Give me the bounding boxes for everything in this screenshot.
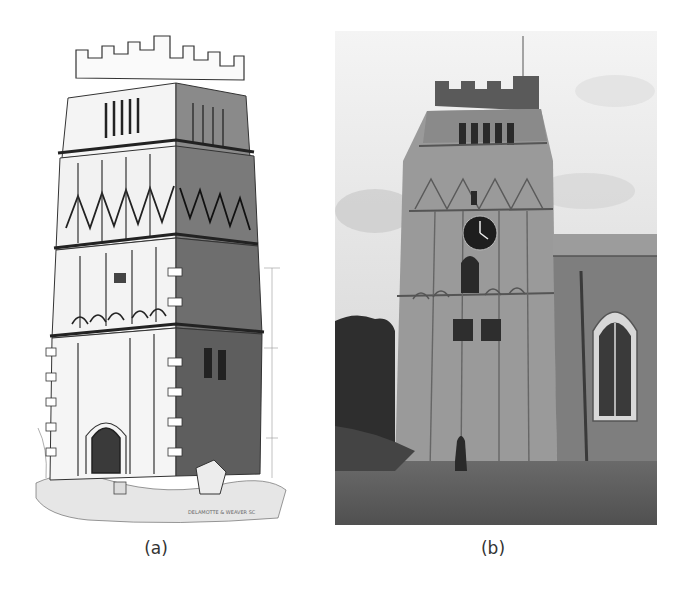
tower-engraving-image: DELAMOTTE & WEAVER SC bbox=[28, 28, 288, 528]
caption-a: (a) bbox=[136, 538, 176, 558]
engraver-signature: DELAMOTTE & WEAVER SC bbox=[188, 509, 256, 515]
caption-b: (b) bbox=[473, 538, 513, 558]
engraving-panel: DELAMOTTE & WEAVER SC bbox=[28, 28, 288, 528]
photograph-panel bbox=[335, 31, 657, 525]
tower-photograph-image bbox=[335, 31, 657, 525]
